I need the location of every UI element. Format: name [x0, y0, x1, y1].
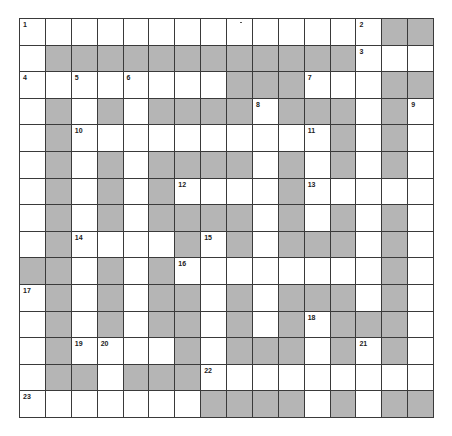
answer-cell[interactable] [253, 205, 278, 231]
answer-cell[interactable] [227, 365, 252, 391]
answer-cell[interactable]: 12 [175, 179, 200, 205]
answer-cell[interactable] [20, 312, 45, 338]
answer-cell[interactable] [305, 258, 330, 284]
answer-cell[interactable] [356, 232, 381, 258]
answer-cell[interactable] [149, 391, 174, 417]
answer-cell[interactable] [305, 391, 330, 417]
answer-cell[interactable] [382, 365, 407, 391]
answer-cell[interactable] [72, 391, 97, 417]
answer-cell[interactable] [356, 391, 381, 417]
answer-cell[interactable]: 3 [356, 46, 381, 72]
answer-cell[interactable] [124, 258, 149, 284]
answer-cell[interactable] [305, 205, 330, 231]
answer-cell[interactable] [72, 205, 97, 231]
answer-cell[interactable] [46, 391, 71, 417]
answer-cell[interactable] [227, 258, 252, 284]
answer-cell[interactable] [124, 391, 149, 417]
answer-cell[interactable] [149, 125, 174, 151]
answer-cell[interactable] [72, 179, 97, 205]
answer-cell[interactable] [408, 46, 433, 72]
answer-cell[interactable] [201, 312, 226, 338]
answer-cell[interactable] [331, 258, 356, 284]
answer-cell[interactable] [98, 19, 123, 45]
answer-cell[interactable] [149, 19, 174, 45]
answer-cell[interactable] [20, 152, 45, 178]
answer-cell[interactable] [305, 365, 330, 391]
answer-cell[interactable] [72, 285, 97, 311]
answer-cell[interactable] [46, 19, 71, 45]
answer-cell[interactable] [124, 125, 149, 151]
answer-cell[interactable] [20, 365, 45, 391]
answer-cell[interactable]: 17 [20, 285, 45, 311]
answer-cell[interactable] [124, 338, 149, 364]
answer-cell[interactable] [253, 179, 278, 205]
answer-cell[interactable] [408, 365, 433, 391]
answer-cell[interactable] [20, 232, 45, 258]
answer-cell[interactable] [279, 258, 304, 284]
answer-cell[interactable] [356, 258, 381, 284]
answer-cell[interactable]: 15 [201, 232, 226, 258]
answer-cell[interactable]: 11 [305, 125, 330, 151]
answer-cell[interactable] [98, 125, 123, 151]
answer-cell[interactable] [408, 205, 433, 231]
answer-cell[interactable] [253, 232, 278, 258]
answer-cell[interactable]: 6 [124, 72, 149, 98]
answer-cell[interactable]: 14 [72, 232, 97, 258]
answer-cell[interactable]: 23 [20, 391, 45, 417]
answer-cell[interactable] [305, 152, 330, 178]
answer-cell[interactable]: 2 [356, 19, 381, 45]
answer-cell[interactable] [408, 285, 433, 311]
answer-cell[interactable] [201, 338, 226, 364]
answer-cell[interactable] [98, 391, 123, 417]
answer-cell[interactable] [331, 365, 356, 391]
answer-cell[interactable] [124, 232, 149, 258]
answer-cell[interactable] [72, 312, 97, 338]
answer-cell[interactable] [408, 152, 433, 178]
answer-cell[interactable] [382, 179, 407, 205]
answer-cell[interactable] [20, 338, 45, 364]
answer-cell[interactable] [72, 258, 97, 284]
answer-cell[interactable] [72, 19, 97, 45]
answer-cell[interactable] [356, 72, 381, 98]
answer-cell[interactable] [124, 179, 149, 205]
answer-cell[interactable] [331, 179, 356, 205]
answer-cell[interactable]: 19 [72, 338, 97, 364]
answer-cell[interactable] [124, 285, 149, 311]
answer-cell[interactable] [175, 19, 200, 45]
answer-cell[interactable] [201, 258, 226, 284]
answer-cell[interactable]: 20 [98, 338, 123, 364]
answer-cell[interactable] [201, 285, 226, 311]
answer-cell[interactable]: 16 [175, 258, 200, 284]
answer-cell[interactable] [331, 72, 356, 98]
answer-cell[interactable] [279, 19, 304, 45]
answer-cell[interactable] [124, 99, 149, 125]
answer-cell[interactable] [124, 19, 149, 45]
answer-cell[interactable]: 8 [253, 99, 278, 125]
answer-cell[interactable] [149, 232, 174, 258]
answer-cell[interactable] [98, 72, 123, 98]
answer-cell[interactable] [356, 365, 381, 391]
answer-cell[interactable] [253, 19, 278, 45]
answer-cell[interactable]: 18 [305, 312, 330, 338]
answer-cell[interactable] [253, 152, 278, 178]
answer-cell[interactable] [46, 72, 71, 98]
answer-cell[interactable] [20, 99, 45, 125]
answer-cell[interactable] [408, 232, 433, 258]
answer-cell[interactable]: 4 [20, 72, 45, 98]
answer-cell[interactable] [305, 19, 330, 45]
answer-cell[interactable] [253, 258, 278, 284]
answer-cell[interactable] [98, 365, 123, 391]
answer-cell[interactable] [279, 125, 304, 151]
answer-cell[interactable] [356, 99, 381, 125]
answer-cell[interactable] [356, 205, 381, 231]
answer-cell[interactable] [253, 285, 278, 311]
answer-cell[interactable] [20, 179, 45, 205]
answer-cell[interactable]: 1 [20, 19, 45, 45]
answer-cell[interactable] [253, 312, 278, 338]
answer-cell[interactable] [175, 125, 200, 151]
answer-cell[interactable] [149, 72, 174, 98]
answer-cell[interactable] [72, 99, 97, 125]
answer-cell[interactable] [175, 72, 200, 98]
answer-cell[interactable] [253, 125, 278, 151]
answer-cell[interactable] [124, 205, 149, 231]
